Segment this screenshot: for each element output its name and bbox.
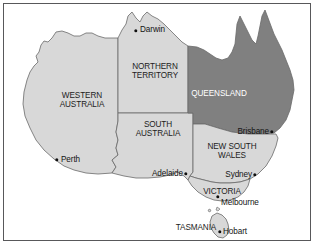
state-shape-south-australia bbox=[112, 113, 193, 180]
bass-strait-islets bbox=[208, 207, 220, 212]
state-shape-western-australia bbox=[23, 31, 118, 174]
australia-map-graphic bbox=[0, 0, 315, 245]
australia-map-figure: WESTERN AUSTRALIA NORTHERN TERRITORY QUE… bbox=[0, 0, 315, 245]
map-landmass-group bbox=[23, 10, 294, 238]
state-shape-northern-territory bbox=[118, 12, 188, 113]
state-shape-tasmania bbox=[210, 213, 229, 238]
state-shape-queensland bbox=[188, 10, 294, 134]
